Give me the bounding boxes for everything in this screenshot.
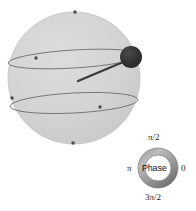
phase-dial-center-label: Phase (142, 163, 167, 173)
phase-label-pi-over-2: π/2 (148, 132, 160, 142)
figure-canvas: π/2 π 0 3π/2 Phase (0, 0, 196, 211)
bloch-sphere-body (8, 12, 140, 144)
phase-label-pi: π (127, 163, 132, 173)
upper-circle-dot (34, 56, 37, 59)
lower-circle-dot-left (10, 96, 13, 99)
phase-label-3pi-over-2: 3π/2 (145, 192, 161, 202)
pole-dot-top (73, 10, 76, 13)
lower-circle-dot-right (98, 105, 101, 108)
bloch-sphere-figure (0, 0, 196, 211)
phase-label-zero: 0 (181, 163, 186, 173)
state-ball (120, 46, 142, 68)
pole-dot-bottom (71, 141, 74, 144)
